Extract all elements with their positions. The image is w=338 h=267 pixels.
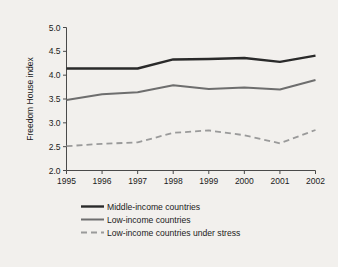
y-tick-label: 5.0 (49, 23, 61, 33)
y-axis-title: Freedom House index (25, 56, 35, 140)
x-tick-label: 1997 (128, 176, 147, 186)
series-line-2 (67, 130, 316, 146)
x-tick-label: 2000 (235, 176, 254, 186)
legend-label-0: Middle-income countries (107, 202, 200, 212)
chart-figure: 2.02.53.03.54.04.55.01995199619971998199… (0, 0, 338, 267)
x-tick-label: 1995 (57, 176, 76, 186)
series-line-0 (67, 56, 316, 69)
legend-label-2: Low-income countries under stress (107, 228, 240, 238)
x-tick-label: 1998 (164, 176, 183, 186)
y-tick-label: 4.0 (49, 70, 61, 80)
x-tick-label: 1996 (93, 176, 112, 186)
y-tick-label: 3.5 (49, 94, 61, 104)
x-tick-label: 2001 (270, 176, 289, 186)
y-tick-label: 2.0 (49, 166, 61, 176)
legend-label-1: Low-income countries (107, 215, 191, 225)
series-line-1 (67, 80, 316, 100)
y-tick-label: 4.5 (49, 46, 61, 56)
y-tick-label: 3.0 (49, 118, 61, 128)
freedom-house-index-line-chart: 2.02.53.03.54.04.55.01995199619971998199… (0, 0, 338, 267)
x-tick-label: 2002 (306, 176, 325, 186)
x-tick-label: 1999 (199, 176, 218, 186)
y-tick-label: 2.5 (49, 142, 61, 152)
axis-spines (67, 28, 316, 171)
